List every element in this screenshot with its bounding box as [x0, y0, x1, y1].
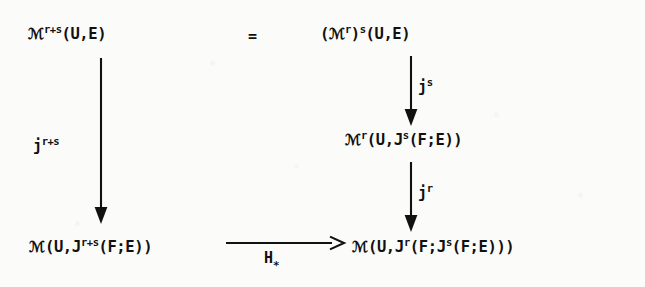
arrow-left-vertical: [92, 58, 110, 226]
label-base-j: j: [418, 184, 427, 202]
jet-symbol-j-inner: J: [437, 237, 446, 256]
arg-close: ): [453, 131, 462, 149]
arrow-down-icon: [92, 58, 110, 226]
open-paren: (: [320, 25, 329, 43]
arrow-label-left-vertical: jr+s: [33, 136, 59, 154]
fraktur-m-symbol: ℳ: [329, 25, 345, 43]
arg-open: (U,: [368, 238, 395, 256]
label-base-j: j: [33, 137, 42, 155]
closing-parens: )): [496, 238, 514, 256]
inner-open: (F;: [410, 238, 437, 256]
node-top-left-argument: (U,E): [61, 25, 106, 43]
close-paren: ): [351, 25, 360, 43]
equals-sign: =: [248, 27, 257, 45]
label-base-j: j: [418, 78, 427, 96]
diagram-canvas: ℳr+s(U,E) = (ℳr)s(U,E) jr+s js ℳr(U,Js(F…: [0, 0, 645, 287]
fraktur-m-symbol: ℳ: [29, 238, 45, 256]
arrow-label-right-upper: js: [418, 77, 432, 95]
fraktur-m-symbol: ℳ: [345, 131, 361, 149]
superscript-r-plus-s: r+s: [44, 23, 61, 35]
jet-argument: (F;E): [99, 238, 144, 256]
label-superscript-r: r: [427, 182, 433, 194]
label-base-h: H: [264, 249, 273, 267]
arrow-right-icon: [226, 234, 348, 252]
label-superscript-r-plus-s: r+s: [42, 135, 59, 147]
node-middle-right: ℳr(U,Js(F;E)): [345, 130, 462, 149]
node-bottom-left: ℳ(U,Jr+s(F;E)): [29, 237, 152, 256]
label-subscript-star: ∗: [273, 257, 279, 270]
node-top-right: (ℳr)s(U,E): [320, 24, 410, 43]
node-bottom-right: ℳ(U,Jr(F;Js(F;E))): [352, 237, 514, 256]
jet-argument: (F;E): [409, 131, 454, 149]
arrow-bottom-horizontal: [226, 234, 348, 252]
arg-open: (U,: [367, 131, 394, 149]
jet-symbol-j: J: [72, 237, 81, 256]
arrow-label-bottom-horizontal: H∗: [264, 251, 279, 269]
jet-symbol-j: J: [395, 237, 404, 256]
fraktur-m-symbol: ℳ: [28, 25, 44, 43]
jet-superscript-r-plus-s: r+s: [81, 236, 98, 248]
jet-inner-argument: (F;E): [452, 238, 497, 256]
arg-open: (U,: [45, 238, 72, 256]
label-superscript-s: s: [427, 76, 433, 88]
arg-close: ): [143, 238, 152, 256]
node-top-left: ℳr+s(U,E): [28, 24, 106, 43]
arrow-label-right-lower: jr: [418, 183, 432, 201]
fraktur-m-symbol: ℳ: [352, 238, 368, 256]
jet-symbol-j: J: [394, 130, 403, 149]
node-top-right-argument: (U,E): [366, 25, 411, 43]
